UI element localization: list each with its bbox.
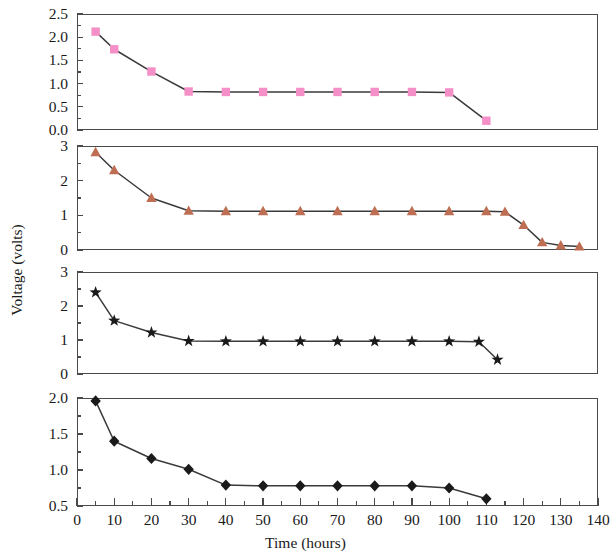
series-line [96,152,580,246]
y-tick-label: 3 [28,138,68,154]
data-point-marker [220,335,232,347]
data-point-marker [481,493,491,504]
y-tick-label: 0 [28,366,68,382]
y-tick-label: 0 [28,242,68,258]
x-tick-label: 120 [512,512,535,528]
y-tick-label: 2.0 [28,390,68,406]
data-point-marker [444,482,454,493]
data-point-marker [443,335,455,347]
data-point-marker [146,193,156,202]
y-tick-label: 1.5 [28,53,68,69]
data-series-3 [77,272,598,374]
y-tick-label: 2.0 [28,29,68,45]
data-point-marker [146,453,156,464]
series-line [96,32,487,121]
data-point-marker [369,335,381,347]
data-point-marker [407,480,417,491]
chart-panel-1: 0.00.51.01.52.02.5 [77,14,598,130]
series-line [96,292,498,359]
series-line [96,401,487,499]
data-point-marker [222,88,230,96]
data-point-marker [257,335,269,347]
data-point-marker [110,45,118,53]
data-series-1 [77,14,598,130]
data-point-marker [258,480,268,491]
chart-panel-3: 0123 [77,272,598,374]
x-tick-label: 80 [367,512,383,528]
data-point-marker [109,436,119,447]
data-point-marker [108,314,120,326]
data-point-marker [406,335,418,347]
y-axis-label-container: Voltage (volts) [4,120,30,420]
x-tick-label: 50 [255,512,271,528]
y-tick-label: 1.5 [28,426,68,442]
data-series-4 [77,398,598,506]
data-point-marker [90,286,102,298]
data-point-marker [371,88,379,96]
data-point-marker [331,335,343,347]
x-tick-label: 10 [106,512,122,528]
data-point-marker [408,88,416,96]
data-point-marker [221,480,231,491]
y-axis-label: Voltage (volts) [8,224,26,315]
y-tick-label: 0.0 [28,122,68,138]
data-point-marker [333,88,341,96]
data-point-marker [332,480,342,491]
y-tick-label: 1 [28,332,68,348]
data-point-marker [295,480,305,491]
data-point-marker [184,87,192,95]
y-tick-label: 0.5 [28,498,68,514]
data-point-marker [145,326,157,338]
y-tick-label: 0.5 [28,99,68,115]
data-point-marker [370,480,380,491]
y-tick-label: 1.0 [28,462,68,478]
data-point-marker [183,464,193,475]
x-tick-label: 100 [438,512,461,528]
chart-panel-4: 0.51.01.52.0 [77,398,598,506]
data-point-marker [445,88,453,96]
data-point-marker [90,395,100,406]
voltage-vs-time-figure: Voltage (volts) 0.00.51.01.52.02.5012301… [0,0,611,558]
data-point-marker [183,335,195,347]
y-tick-label: 2.5 [28,6,68,22]
x-tick-label: 60 [293,512,309,528]
y-tick-label: 1 [28,208,68,224]
x-tick-label: 30 [181,512,197,528]
x-axis-label: Time (hours) [0,534,611,552]
y-tick-label: 3 [28,264,68,280]
chart-panel-2: 0123 [77,146,598,250]
y-tick-label: 1.0 [28,76,68,92]
data-point-marker [296,88,304,96]
x-tick-label: 40 [218,512,234,528]
x-tick-label: 130 [549,512,572,528]
data-point-marker [294,335,306,347]
data-point-marker [518,220,528,229]
x-tick-label: 0 [73,512,81,528]
data-series-2 [77,146,598,250]
x-tick-label: 20 [144,512,160,528]
data-point-marker [259,88,267,96]
x-tick-label: 70 [330,512,346,528]
data-point-marker [90,147,100,156]
x-tick-label: 90 [404,512,420,528]
data-point-marker [147,67,155,75]
y-tick-label: 2 [28,173,68,189]
x-tick-label: 110 [475,512,498,528]
y-tick-label: 2 [28,298,68,314]
x-tick-label: 140 [586,512,609,528]
data-point-marker [482,117,490,125]
data-point-marker [91,27,99,35]
